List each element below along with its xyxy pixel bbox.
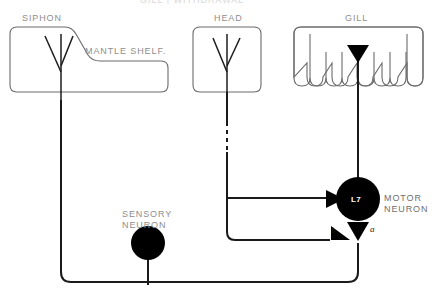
sensory-neuron-label-line1: SENSORY [122, 209, 172, 220]
siphon-label: SIPHON [22, 13, 62, 24]
head-fibre-return-path [227, 198, 330, 240]
siphon-afferent-pathway [61, 100, 358, 282]
sensory-neuron-label-line2: NEURON [122, 220, 166, 231]
gill-label: GILL [345, 13, 368, 24]
gill-withdrawal-reflex-diagram [0, 0, 434, 292]
synapse-b-label: b [331, 225, 336, 235]
figure-canvas: GILL | WITHDRAWAL [0, 0, 434, 292]
siphon-mantle-outline [10, 27, 168, 92]
motor-neuron-label-line1: MOTOR [384, 193, 422, 204]
mantle-shelf-label: MANTLE SHELF. [85, 46, 166, 57]
siphon-branches [45, 34, 73, 100]
motor-neuron-label-line2: NEURON [384, 204, 428, 215]
head-branches [213, 34, 240, 92]
l7-soma-label: L7 [351, 195, 361, 204]
head-label: HEAD [214, 13, 243, 24]
synapse-a-triangle-icon [347, 222, 369, 241]
synapse-a-label: a [370, 224, 375, 234]
sensory-neuron-soma [131, 226, 165, 260]
gill-terminal-triangle-icon [347, 45, 369, 63]
